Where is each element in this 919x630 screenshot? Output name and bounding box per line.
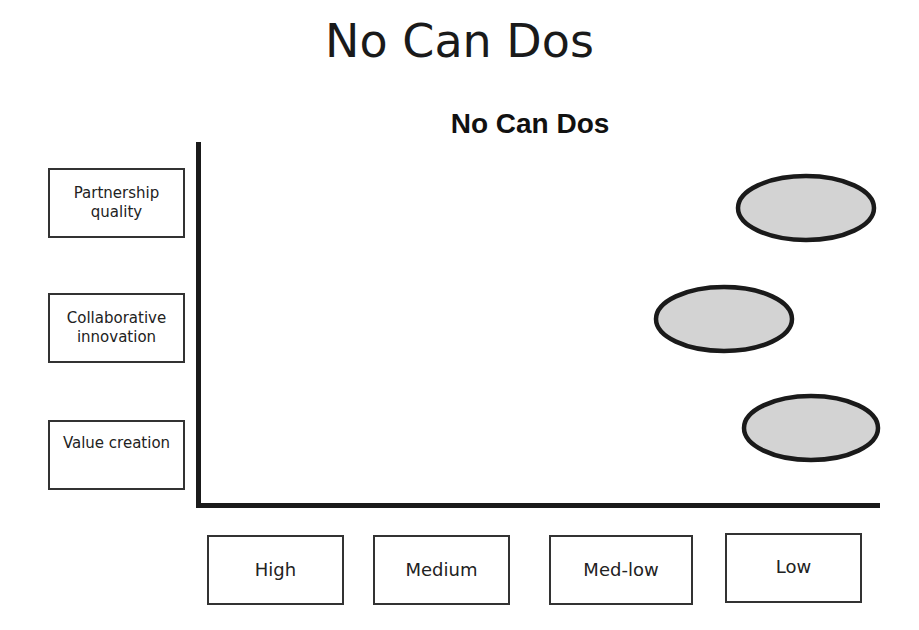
x-label-text: Low bbox=[776, 555, 811, 578]
marker-partnership-quality bbox=[738, 176, 874, 240]
x-label-text: Medium bbox=[406, 558, 478, 581]
x-label-med-low: Med-low bbox=[549, 535, 693, 605]
x-label-text: Med-low bbox=[583, 558, 658, 581]
x-label-high: High bbox=[207, 535, 344, 605]
marker-collaborative-innovation bbox=[656, 287, 792, 351]
x-label-medium: Medium bbox=[373, 535, 510, 605]
marker-value-creation bbox=[744, 396, 878, 460]
x-label-text: High bbox=[255, 558, 296, 581]
x-label-low: Low bbox=[725, 533, 862, 603]
